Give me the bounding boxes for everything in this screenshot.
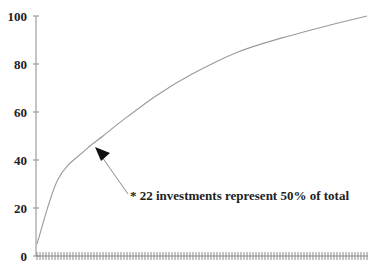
y-label-100: 100 — [8, 9, 28, 24]
annotation-text: * 22 investments represent 50% of total — [130, 188, 349, 203]
y-label-0: 0 — [21, 249, 28, 264]
arrowhead-icon — [95, 147, 110, 161]
y-label-20: 20 — [14, 201, 27, 216]
y-tick-labels: 100 80 60 40 20 0 — [8, 9, 28, 264]
annotation-arrow — [95, 147, 128, 194]
chart: 100 80 60 40 20 0 * 22 investments repre… — [0, 0, 376, 269]
y-label-60: 60 — [14, 105, 27, 120]
y-label-40: 40 — [14, 153, 27, 168]
cumulative-curve — [37, 16, 367, 244]
y-label-80: 80 — [14, 57, 27, 72]
